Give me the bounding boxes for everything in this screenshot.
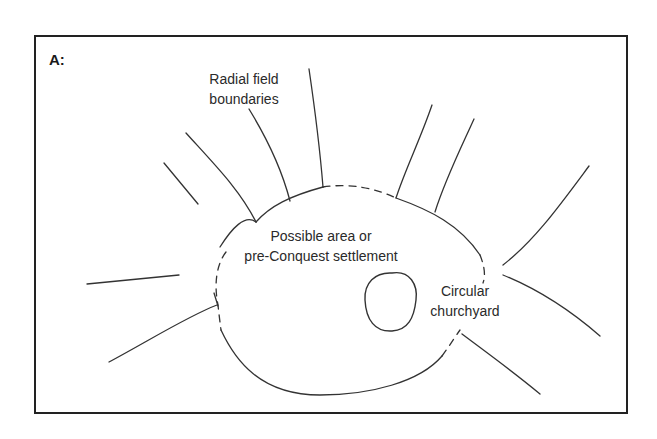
settlement-label-line2: pre-Conquest settlement	[236, 246, 406, 266]
radial-label-line1: Radial field	[184, 69, 304, 89]
settlement-boundary-solid	[256, 187, 323, 222]
settlement-boundary-dashed	[323, 186, 396, 198]
settlement-label-line1: Possible area or	[236, 226, 406, 246]
settlement-boundary-solid	[396, 198, 480, 255]
churchyard-label: Circular churchyard	[420, 281, 510, 321]
radial-boundary-line	[87, 275, 179, 284]
radial-boundary-line	[503, 166, 589, 265]
radial-boundary-line	[186, 133, 256, 222]
churchyard-outline	[365, 273, 416, 331]
radial-boundary-line	[503, 275, 600, 336]
settlement-boundary-solid	[221, 330, 442, 395]
radial-boundary-line	[435, 119, 474, 212]
radial-label-line2: boundaries	[184, 89, 304, 109]
radial-boundary-line	[109, 305, 217, 362]
settlement-boundary-dashed	[442, 330, 460, 356]
settlement-boundary-dashed	[216, 252, 226, 330]
radial-boundary-line	[309, 69, 323, 187]
churchyard-label-line1: Circular	[420, 281, 510, 301]
diagram-canvas: A: Radial field boundaries Possible area…	[0, 0, 657, 439]
figure-frame	[35, 36, 627, 413]
panel-label: A:	[49, 50, 65, 70]
churchyard-label-line2: churchyard	[420, 301, 510, 321]
radial-boundary-line	[249, 109, 290, 201]
settlement-label: Possible area or pre-Conquest settlement	[236, 226, 406, 266]
settlement-boundary-dashed	[480, 255, 484, 283]
radial-field-label: Radial field boundaries	[184, 69, 304, 109]
radial-boundary-line	[164, 163, 198, 204]
diagram-svg	[0, 0, 657, 439]
radial-boundary-line	[462, 334, 540, 394]
radial-boundary-line	[396, 105, 432, 198]
